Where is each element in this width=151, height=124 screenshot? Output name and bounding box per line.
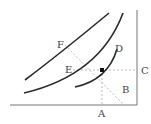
label-c: C: [141, 65, 149, 76]
label-d: D: [115, 43, 123, 54]
label-e: E: [65, 64, 72, 75]
curve-middle: [24, 13, 123, 93]
label-b: B: [122, 84, 129, 95]
label-a: A: [97, 108, 106, 119]
label-f: F: [57, 39, 64, 50]
equilibrium-point: [100, 68, 104, 72]
indifference-curve-diagram: F D E C B A: [0, 0, 151, 124]
